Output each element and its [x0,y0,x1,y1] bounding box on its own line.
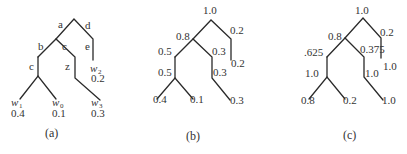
leaf-value-1: 0.8 [301,94,315,106]
weight-r2: 1.0 [383,60,397,72]
edge-label-d: d [85,19,91,31]
weight-ll: 0.5 [158,45,172,57]
caption-b: (b) [186,129,200,143]
weight-right-top: 0.2 [230,24,244,36]
weight-left-top: 0.8 [328,30,342,42]
leaf-value-3: 1.0 [382,94,396,106]
weight-lr: 0.375 [360,43,385,55]
weight-ll2: 0.5 [158,66,172,78]
tree-c: 1.0 0.8 0.2 .625 0.375 1.0 1.0 1.0 0.8 0… [301,4,397,142]
root-weight: 1.0 [355,4,369,16]
edge-label-e: e [85,40,90,52]
leaf-value-2: 0.1 [190,93,204,105]
edge-label-z: z [65,60,70,72]
weight-left-top: 0.8 [176,30,190,42]
weight-lr2: 1.0 [365,67,379,79]
leaf-value-1: 0.4 [153,93,167,105]
weight-ll: .625 [304,46,324,58]
caption-a: (a) [45,126,58,140]
caption-c: (c) [343,128,356,142]
edge-label-a: a [58,18,63,30]
weight-right-top: 0.2 [380,26,394,38]
weight-lr2: 0.3 [213,66,227,78]
weight-lr: 0.3 [212,45,226,57]
leaf-value-3: 0.3 [230,94,244,106]
tree-a-left-leaves [20,76,56,99]
leaf-w0-value: 0.1 [52,107,66,119]
leaf-w3-value: 0.3 [91,107,105,119]
leaf-w1-value: 0.4 [11,107,25,119]
edge-label-c-left: c [29,60,34,72]
tree-a: a d b c e c z w 2 0.2 w 1 0.4 w 0 0.1 w … [11,18,105,140]
leaf-w2-value: 0.2 [91,72,105,84]
tree-figure: a d b c e c z w 2 0.2 w 1 0.4 w 0 0.1 w … [0,0,407,154]
edge-label-c-right: c [62,40,67,52]
edge-label-b: b [38,40,44,52]
tree-b: 1.0 0.8 0.2 0.5 0.3 0.2 0.5 0.3 0.4 0.1 … [153,4,245,143]
root-weight: 1.0 [203,4,217,16]
weight-ll2: 1.0 [305,67,319,79]
leaf-value-2: 0.2 [343,94,357,106]
weight-r2: 0.2 [231,57,245,69]
